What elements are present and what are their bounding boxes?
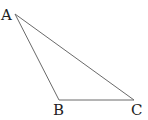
vertex-label-c: C: [131, 101, 142, 119]
vertex-label-b: B: [53, 101, 64, 119]
vertex-label-a: A: [0, 6, 12, 24]
triangle-diagram: A B C: [0, 0, 148, 120]
triangle-abc: [15, 14, 134, 100]
